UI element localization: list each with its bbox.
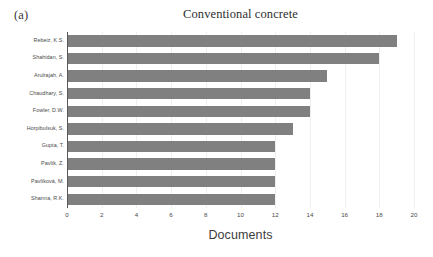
x-axis-tick-labels: 02468101214161820 xyxy=(67,211,414,223)
y-axis-tick-labels: Rebeiz, K.S.Shahidan, S.Arulrajah, A.Cha… xyxy=(0,32,64,208)
bar-row[interactable] xyxy=(67,120,414,138)
bar[interactable] xyxy=(67,141,275,152)
bar-row[interactable] xyxy=(67,85,414,103)
y-axis-tick-label: Chaudhary, S. xyxy=(2,90,64,96)
y-axis-tick-label: Pavlíková, M. xyxy=(2,178,64,184)
bar-row[interactable] xyxy=(67,32,414,50)
x-axis-tick-label: 4 xyxy=(123,211,149,218)
x-axis-tick-label: 10 xyxy=(228,211,254,218)
bar[interactable] xyxy=(67,158,275,169)
bar-row[interactable] xyxy=(67,155,414,173)
gridline xyxy=(414,32,415,208)
x-axis-tick-label: 18 xyxy=(366,211,392,218)
bar-row[interactable] xyxy=(67,190,414,208)
bar[interactable] xyxy=(67,35,397,46)
y-axis-tick-label: Rebeiz, K.S. xyxy=(2,37,64,43)
bar-row[interactable] xyxy=(67,173,414,191)
x-axis-tick-label: 12 xyxy=(262,211,288,218)
y-axis-tick-label: Fowler, D.W. xyxy=(2,107,64,113)
bar[interactable] xyxy=(67,123,293,134)
y-axis-tick-label: Gupta, T. xyxy=(2,142,64,148)
y-axis-tick-label: Pavlík, Z. xyxy=(2,160,64,166)
bar-row[interactable] xyxy=(67,102,414,120)
bar-row[interactable] xyxy=(67,67,414,85)
bar[interactable] xyxy=(67,176,275,187)
x-axis-tick-label: 0 xyxy=(54,211,80,218)
bar-row[interactable] xyxy=(67,138,414,156)
chart-figure: (a) Conventional concrete Rebeiz, K.S.Sh… xyxy=(0,0,433,257)
x-axis-title: Documents xyxy=(67,228,414,242)
x-axis-tick-label: 6 xyxy=(158,211,184,218)
bar[interactable] xyxy=(67,194,275,205)
y-axis-tick-label: Shahidan, S. xyxy=(2,54,64,60)
x-axis-tick-label: 2 xyxy=(89,211,115,218)
x-axis-tick-label: 20 xyxy=(401,211,427,218)
y-axis-spine xyxy=(67,32,68,208)
bar[interactable] xyxy=(67,88,310,99)
chart-title: Conventional concrete xyxy=(67,7,414,22)
bar[interactable] xyxy=(67,106,310,117)
bar[interactable] xyxy=(67,70,327,81)
bar[interactable] xyxy=(67,53,379,64)
plot-area xyxy=(67,32,414,208)
y-axis-tick-label: Horpibulsuk, S. xyxy=(2,125,64,131)
x-axis-tick-label: 8 xyxy=(193,211,219,218)
x-axis-tick-label: 14 xyxy=(297,211,323,218)
y-axis-tick-label: Sharma, R.K. xyxy=(2,195,64,201)
bar-row[interactable] xyxy=(67,50,414,68)
y-axis-tick-label: Arulrajah, A. xyxy=(2,72,64,78)
x-axis-tick-label: 16 xyxy=(332,211,358,218)
panel-letter: (a) xyxy=(14,8,28,23)
